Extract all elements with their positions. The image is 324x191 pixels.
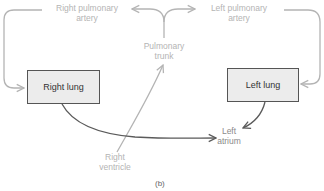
pulmonary-trunk-label: Pulmonary trunk (134, 41, 194, 61)
pulmonary-trunk-line2: trunk (134, 51, 194, 61)
right-ventricle-line1: Right (90, 152, 140, 162)
right-lung-box: Right lung (27, 70, 100, 104)
right-lung-label: Right lung (43, 82, 84, 92)
edge-trunk-to-right-artery (132, 9, 164, 22)
edge-left-lung-to-left-atrium (243, 102, 265, 128)
edge-ventricle-to-trunk (117, 65, 163, 152)
left-lung-label: Left lung (246, 80, 281, 90)
right-pulmonary-artery-label: Right pulmonary artery (46, 3, 128, 23)
right-pulmonary-artery-line2: artery (46, 13, 128, 23)
left-pulmonary-artery-label: Left pulmonary artery (198, 3, 280, 23)
right-pulmonary-artery-line1: Right pulmonary (46, 3, 128, 13)
left-pulmonary-artery-line2: artery (198, 13, 280, 23)
pulmonary-trunk-line1: Pulmonary (134, 41, 194, 51)
right-ventricle-line2: ventricle (90, 162, 140, 172)
left-lung-box: Left lung (227, 68, 299, 102)
edge-right-lung-to-left-atrium (62, 104, 216, 138)
edge-trunk-to-left-artery (164, 9, 195, 22)
left-atrium-line1: Left (204, 126, 254, 136)
left-atrium-line2: atrium (204, 136, 254, 146)
right-ventricle-label: Right ventricle (90, 152, 140, 172)
left-atrium-label: Left atrium (204, 126, 254, 146)
left-pulmonary-artery-line1: Left pulmonary (198, 3, 280, 13)
pulmonary-circulation-diagram: Right pulmonary artery Left pulmonary ar… (0, 0, 324, 191)
figure-caption: (b) (155, 179, 165, 188)
